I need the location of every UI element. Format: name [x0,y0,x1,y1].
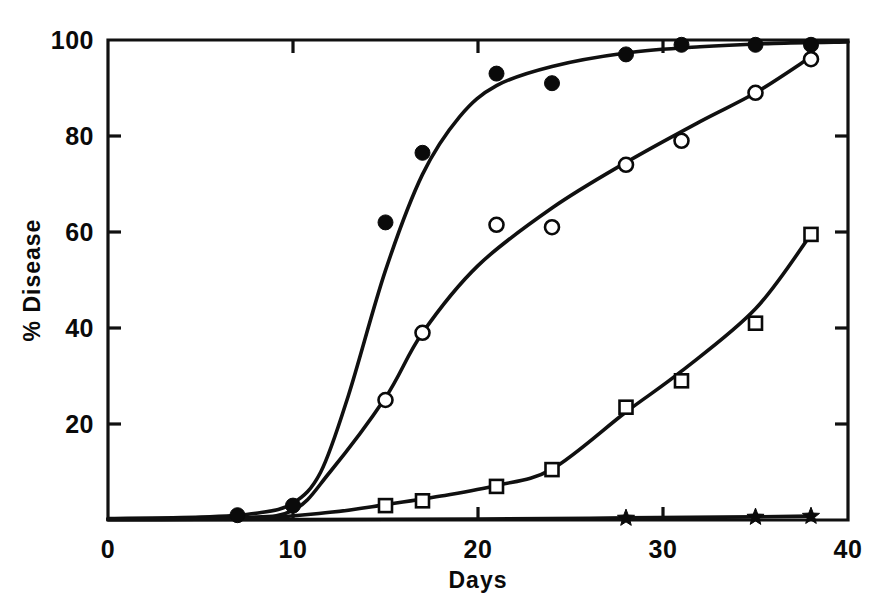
series-curves [108,42,848,520]
x-tick-label-20: 20 [464,535,493,563]
marker-filled-circle [230,508,245,523]
x-axis-title: Days [449,567,508,593]
marker-open-square [620,401,633,414]
marker-filled-circle [286,498,301,513]
marker-open-square [490,480,503,493]
marker-open-square [416,494,429,507]
marker-open-circle [545,220,559,234]
chart-figure: 010203040 20406080100 Days % Disease [0,0,887,611]
axis-frame [108,40,848,520]
marker-open-circle [675,134,689,148]
marker-filled-circle [415,145,430,160]
y-tick-label-60: 60 [65,218,94,246]
marker-star [747,508,764,524]
y-tick-label-20: 20 [65,410,94,438]
x-tick-labels: 010203040 [101,535,863,563]
marker-open-square [379,499,392,512]
marker-open-circle [619,158,633,172]
marker-filled-circle [674,37,689,52]
x-tick-label-30: 30 [649,535,678,563]
y-tick-labels: 20406080100 [51,26,94,438]
marker-open-square [675,374,688,387]
marker-filled-circle [804,37,819,52]
marker-open-circle [416,326,430,340]
curve-series-open-circle [108,57,811,519]
marker-open-circle [804,52,818,66]
marker-filled-circle [619,47,634,62]
disease-progress-chart: 010203040 20406080100 Days % Disease [0,0,887,611]
marker-open-square [749,317,762,330]
marker-star [617,509,634,525]
marker-open-circle [749,86,763,100]
x-tick-label-40: 40 [834,535,863,563]
curve-series-open-square [108,234,811,519]
x-tick-label-0: 0 [101,535,115,563]
y-tick-label-100: 100 [51,26,94,54]
marker-filled-circle [489,66,504,81]
x-tick-label-10: 10 [279,535,308,563]
curve-series-filled-circle [108,42,848,519]
y-axis-title: % Disease [19,219,45,342]
y-tick-label-80: 80 [65,122,94,150]
axis-ticks [108,40,848,520]
marker-open-circle [490,218,504,232]
series-markers [230,37,820,525]
marker-open-square [805,228,818,241]
marker-open-square [546,463,559,476]
marker-filled-circle [748,37,763,52]
axes [108,40,848,520]
y-tick-label-40: 40 [65,314,94,342]
marker-open-circle [379,393,393,407]
marker-filled-circle [378,215,393,230]
marker-filled-circle [545,76,560,91]
